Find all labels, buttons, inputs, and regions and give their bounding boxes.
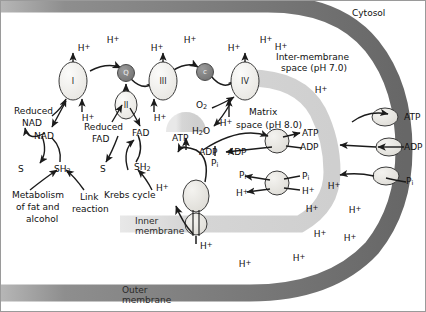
label-porin-atp: ATP [404, 112, 420, 122]
phosphate-porin[interactable] [373, 167, 399, 185]
label-substrate-h2-right: SH2 [134, 162, 151, 174]
label-inner-membrane-1: Inner [135, 216, 158, 227]
label-porin-pi: Pi [406, 176, 413, 188]
label-synthase-pi: Pi [211, 158, 218, 170]
proton-label-matrix-1: H+ [82, 112, 95, 123]
label-symporter-pi: Pi [302, 171, 309, 183]
proton-label-matrix-3: H+ [220, 117, 233, 128]
label-krebs-cycle: Krebs cycle [104, 190, 155, 200]
label-h2o: H2O [192, 126, 210, 138]
label-nad: NAD [34, 131, 54, 141]
label-reduced-nad-1: Reduced [14, 106, 53, 116]
proton-label-space-3: H+ [328, 180, 341, 191]
label-symporter-proton: H+ [302, 185, 315, 196]
label-reduced-nad-2: NAD [22, 118, 42, 128]
proton-label-space-9: H+ [239, 258, 252, 269]
label-matrix-1: Matrix [249, 107, 277, 117]
proton-label-top-1: H+ [78, 42, 91, 53]
carrier-Q-label: Q [123, 69, 129, 77]
label-substrate-h2-left: SH2 [54, 164, 71, 176]
proton-label-top-3: H+ [151, 42, 164, 53]
proton-label-top-2: H+ [107, 34, 120, 45]
label-source-1: Metabolism [12, 190, 64, 200]
proton-label-top-5: H+ [228, 42, 241, 53]
carrier-cytc-label: c [203, 68, 207, 76]
label-translocase-atp-out: ATP [302, 128, 318, 138]
proton-label-space-7: H+ [344, 232, 357, 243]
label-outer-membrane-2: membrane [122, 295, 171, 306]
etc-diagram: Cytosol Inter-membrane space (pH 7.0) Ma… [0, 0, 426, 312]
proton-label-top-4: H+ [184, 34, 197, 45]
complex-II-label: II [124, 101, 129, 110]
proton-label-top-6: H+ [260, 34, 273, 45]
label-matrix-adp: ADP [228, 147, 247, 157]
label-substrate-left: S [18, 164, 24, 174]
proton-label-space-1: H+ [275, 41, 288, 52]
label-synthase-proton-out: H+ [200, 240, 213, 251]
label-source-3: alcohol [26, 214, 58, 224]
label-translocase-adp-in: ADP [300, 142, 319, 152]
proton-label-space-6: H+ [314, 228, 327, 239]
label-matrix-pi: Pi [239, 170, 246, 182]
proton-label-space-4: H+ [349, 204, 362, 215]
label-cytosol: Cytosol [352, 8, 385, 18]
atp-adp-translocase[interactable] [265, 129, 289, 153]
proton-label-space-2: H+ [315, 84, 328, 95]
label-link-2: reaction [72, 204, 109, 214]
label-link-1: Link [80, 192, 98, 202]
label-intermembrane-1: Inter-membrane [276, 52, 349, 62]
label-synthase-adp: ADP [199, 147, 218, 157]
label-source-2: of fat and [16, 202, 60, 212]
label-substrate-right: S [100, 164, 106, 174]
label-inner-membrane-2: membrane [135, 226, 184, 237]
phosphate-h-symporter[interactable] [265, 171, 289, 195]
label-reduced-fad-1: Reduced [84, 122, 123, 132]
complex-III-label: III [159, 77, 166, 86]
proton-label-space-8: H+ [293, 252, 306, 263]
label-reduced-fad-2: FAD [92, 134, 109, 144]
label-synthase-atp: ATP [172, 133, 188, 143]
label-synthase-proton-in: H+ [156, 182, 169, 193]
complex-IV-label: IV [241, 77, 249, 86]
label-porin-adp: ADP [404, 142, 423, 152]
complex-I-label: I [72, 77, 74, 86]
label-matrix-2: space (pH 8.0) [236, 120, 302, 130]
label-outer-membrane-1: Outer [122, 285, 148, 296]
proton-label-space-5: H+ [306, 203, 319, 214]
label-fad: FAD [132, 128, 149, 138]
atp-porin[interactable] [372, 108, 398, 126]
proton-label-matrix-2: H+ [154, 112, 167, 123]
label-o2: O2 [196, 100, 207, 112]
label-matrix-proton: H+ [236, 187, 249, 198]
label-intermembrane-2: space (pH 7.0) [281, 63, 347, 73]
